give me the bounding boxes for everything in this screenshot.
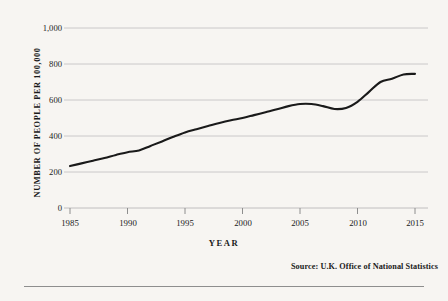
chart-figure: NUMBER OF PEOPLE PER 100,000 1,000 800 6…: [0, 0, 448, 301]
source-attribution: Source: U.K. Office of National Statisti…: [291, 262, 438, 271]
footer-divider: [24, 286, 424, 287]
x-axis-ticks: [70, 208, 415, 214]
plot-area: [0, 0, 448, 301]
data-line-series-0: [70, 74, 415, 166]
